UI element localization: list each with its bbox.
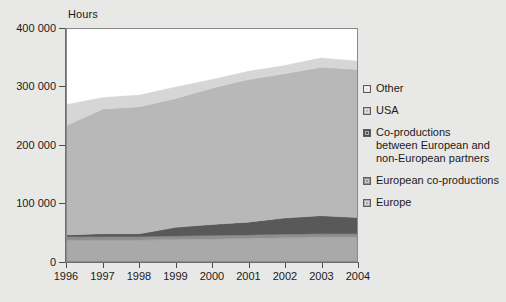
y-axis-label-400000: 400 000	[4, 22, 56, 34]
x-axis-label-2004: 2004	[338, 270, 378, 282]
x-axis-label-1996: 1996	[46, 270, 86, 282]
x-axis-label-2002: 2002	[265, 270, 305, 282]
legend-item-usa[interactable]: USA	[363, 104, 506, 117]
legend-label-european-coproductions: European co-productions	[376, 174, 499, 187]
x-axis-label-2003: 2003	[302, 270, 342, 282]
stacked-area-svg	[67, 29, 357, 261]
x-axis-label-2001: 2001	[229, 270, 269, 282]
x-axis-tick	[322, 263, 323, 268]
legend-label-usa: USA	[376, 104, 399, 117]
chart-page: Hours 400 000 300 000 200 000 100 000 0 …	[0, 0, 506, 302]
x-axis-label-1998: 1998	[119, 270, 159, 282]
legend-swatch-usa	[363, 107, 371, 115]
legend-item-coproductions-european-non-european[interactable]: Co-productions between European and non-…	[363, 126, 506, 165]
x-axis-label-1999: 1999	[156, 270, 196, 282]
y-axis-label-100000: 100 000	[4, 197, 56, 209]
y-axis-label-200000: 200 000	[4, 139, 56, 151]
y-axis-label-0: 0	[4, 256, 56, 268]
x-axis-tick	[249, 263, 250, 268]
y-axis-labels: 400 000 300 000 200 000 100 000 0	[0, 0, 56, 302]
x-axis-tick	[66, 263, 67, 268]
legend-swatch-europe	[363, 199, 371, 207]
y-axis-label-300000: 300 000	[4, 80, 56, 92]
legend-item-other[interactable]: Other	[363, 82, 506, 95]
legend-swatch-european-coproductions	[363, 177, 371, 185]
x-axis-tick	[139, 263, 140, 268]
legend-label-europe: Europe	[376, 196, 411, 209]
legend-label-other: Other	[376, 82, 404, 95]
legend-item-european-coproductions[interactable]: European co-productions	[363, 174, 506, 187]
area-band-usa	[67, 67, 357, 235]
x-axis-label-1997: 1997	[83, 270, 123, 282]
x-axis-tick	[285, 263, 286, 268]
x-axis-tick	[212, 263, 213, 268]
y-axis-title: Hours	[68, 8, 98, 20]
legend-swatch-other	[363, 85, 371, 93]
x-axis-tick	[358, 263, 359, 268]
legend-label-coproductions-european-non-european: Co-productions between European and non-…	[376, 126, 490, 165]
x-axis-label-2000: 2000	[192, 270, 232, 282]
legend-item-europe[interactable]: Europe	[363, 196, 506, 209]
chart-legend: Other USA Co-productions between Europea…	[363, 82, 506, 218]
plot-area	[66, 28, 358, 262]
legend-swatch-coproductions-european-non-european	[363, 129, 371, 137]
x-axis-tick	[176, 263, 177, 268]
x-axis-tick	[103, 263, 104, 268]
area-band-europe	[67, 237, 357, 261]
